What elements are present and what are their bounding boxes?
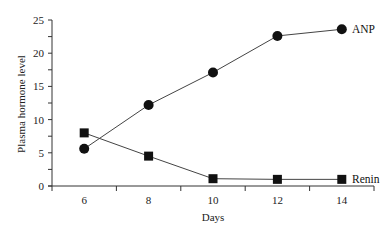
data-point-square xyxy=(337,175,346,184)
x-tick-label: 6 xyxy=(81,194,87,206)
y-tick-label: 10 xyxy=(33,114,45,126)
x-tick-label: 14 xyxy=(336,194,348,206)
x-axis-title: Days xyxy=(202,211,225,223)
x-tick-label: 10 xyxy=(208,194,220,206)
series-layer xyxy=(79,24,347,184)
y-tick-label: 15 xyxy=(33,80,45,92)
data-point-circle xyxy=(79,144,89,154)
data-point-circle xyxy=(144,100,154,110)
data-point-square xyxy=(273,175,282,184)
series-label-anp: ANP xyxy=(352,23,375,35)
x-tick-label: 8 xyxy=(146,194,152,206)
y-tick-label: 25 xyxy=(33,14,45,26)
line-chart: 051015202568101214 Days Plasma hormone l… xyxy=(0,0,391,234)
data-point-square xyxy=(209,174,218,183)
data-point-square xyxy=(80,128,89,137)
x-tick-label: 12 xyxy=(272,194,283,206)
series-renin xyxy=(80,128,347,183)
axes: 051015202568101214 xyxy=(33,14,374,206)
data-point-circle xyxy=(272,31,282,41)
data-point-circle xyxy=(337,24,347,34)
y-tick-label: 0 xyxy=(39,180,45,192)
data-point-circle xyxy=(208,67,218,77)
series-anp xyxy=(79,24,347,154)
y-tick-label: 5 xyxy=(39,147,45,159)
y-axis-title: Plasma hormone level xyxy=(15,55,27,153)
series-line xyxy=(84,133,342,179)
data-point-square xyxy=(144,152,153,161)
y-tick-label: 20 xyxy=(33,47,45,59)
series-label-renin: Renin xyxy=(352,173,380,185)
series-line xyxy=(84,29,342,149)
